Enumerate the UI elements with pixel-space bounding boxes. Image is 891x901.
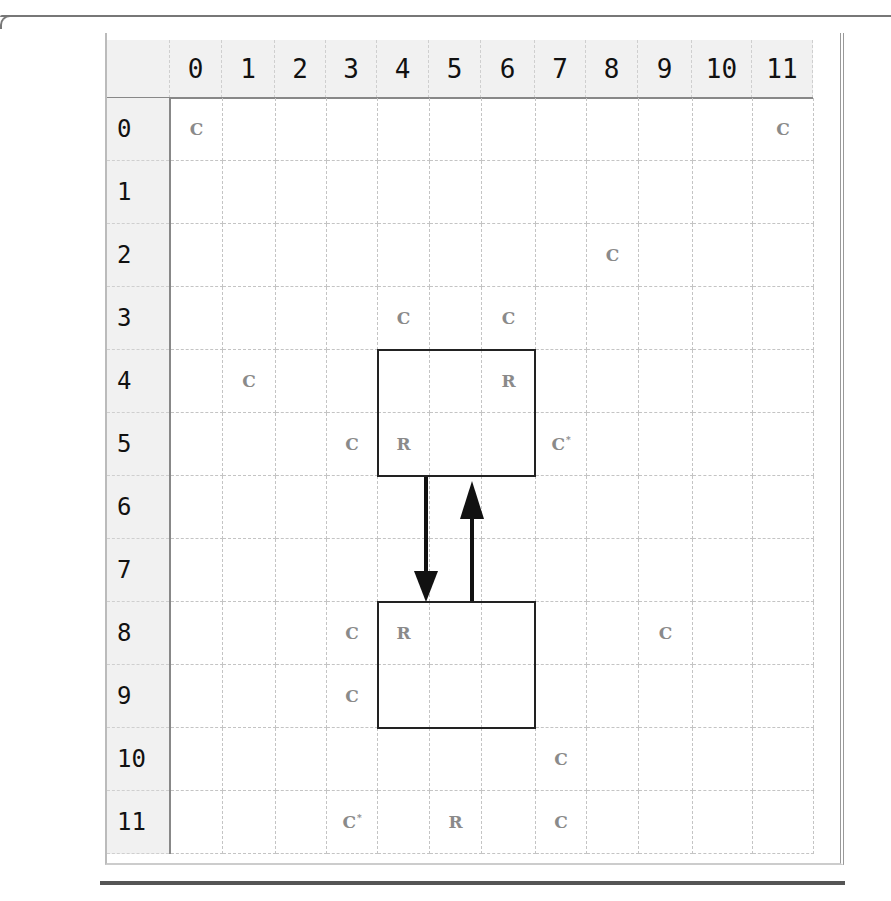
grid-cell[interactable] [276,791,327,854]
row-header-6[interactable]: 6 [107,476,169,539]
grid-cell[interactable] [378,665,430,728]
cell-c-marker[interactable]: C [327,665,378,728]
column-header-3[interactable]: 3 [326,40,377,98]
grid-cell[interactable] [587,665,639,728]
grid-cell[interactable] [378,476,430,539]
grid-cell[interactable] [753,728,814,791]
grid-cell[interactable] [482,728,536,791]
grid-cell[interactable] [587,350,639,413]
row-header-10[interactable]: 10 [107,728,169,791]
grid-cell[interactable] [430,728,482,791]
column-header-8[interactable]: 8 [586,40,638,98]
cell-c-marker[interactable]: C* [536,413,587,476]
grid-cell[interactable] [171,791,223,854]
grid-cell[interactable] [639,539,693,602]
grid-cell[interactable] [171,350,223,413]
grid-cell[interactable] [639,413,693,476]
grid-cell[interactable] [223,287,276,350]
grid-cell[interactable] [639,728,693,791]
grid-cell[interactable] [482,602,536,665]
grid-cell[interactable] [430,98,482,161]
grid-cell[interactable] [536,476,587,539]
column-header-4[interactable]: 4 [377,40,429,98]
grid-cell[interactable] [693,161,753,224]
grid-cell[interactable] [430,665,482,728]
grid-cell[interactable] [753,161,814,224]
grid-cell[interactable] [693,476,753,539]
cell-c-marker[interactable]: C [327,602,378,665]
grid-cell[interactable] [536,665,587,728]
grid-cell[interactable] [753,287,814,350]
grid-cell[interactable] [223,98,276,161]
grid-cell[interactable] [482,476,536,539]
grid-cell[interactable] [536,350,587,413]
grid-cell[interactable] [171,287,223,350]
cell-c-marker[interactable]: C [223,350,276,413]
grid-cell[interactable] [223,413,276,476]
grid-cell[interactable] [639,224,693,287]
grid-cell[interactable] [276,728,327,791]
grid-cell[interactable] [639,476,693,539]
grid-cell[interactable] [223,161,276,224]
grid-cell[interactable] [639,287,693,350]
column-header-7[interactable]: 7 [535,40,586,98]
row-header-1[interactable]: 1 [107,161,169,224]
row-header-3[interactable]: 3 [107,287,169,350]
grid-cell[interactable] [482,224,536,287]
grid-cell[interactable] [639,98,693,161]
grid-cell[interactable] [482,539,536,602]
grid-cell[interactable] [693,98,753,161]
grid-cell[interactable] [587,413,639,476]
grid-cell[interactable] [223,602,276,665]
grid-cell[interactable] [430,476,482,539]
grid-cell[interactable] [223,539,276,602]
grid-cell[interactable] [536,98,587,161]
grid-cell[interactable] [327,476,378,539]
row-header-8[interactable]: 8 [107,602,169,665]
grid-cell[interactable] [276,476,327,539]
grid-cell[interactable] [693,350,753,413]
row-header-4[interactable]: 4 [107,350,169,413]
grid-cell[interactable] [430,224,482,287]
cell-c-marker[interactable]: C [639,602,693,665]
grid-cell[interactable] [276,665,327,728]
grid-cell[interactable] [482,98,536,161]
grid-cell[interactable] [536,224,587,287]
grid-cell[interactable] [482,413,536,476]
grid-cell[interactable] [587,539,639,602]
grid-cell[interactable] [587,728,639,791]
cell-c-marker[interactable]: C [327,413,378,476]
row-header-5[interactable]: 5 [107,413,169,476]
grid-cell[interactable] [276,350,327,413]
grid-cell[interactable] [693,665,753,728]
grid-cell[interactable] [276,161,327,224]
grid-cell[interactable] [327,728,378,791]
grid-cell[interactable] [482,161,536,224]
grid-cell[interactable] [223,665,276,728]
column-header-9[interactable]: 9 [638,40,692,98]
grid-cell[interactable] [587,602,639,665]
cell-c-marker[interactable]: C* [327,791,378,854]
grid-cell[interactable] [378,161,430,224]
grid-cell[interactable] [430,413,482,476]
column-header-10[interactable]: 10 [692,40,752,98]
column-header-5[interactable]: 5 [429,40,481,98]
cell-c-marker[interactable]: C [587,224,639,287]
grid-cell[interactable] [276,287,327,350]
grid-cell[interactable] [482,791,536,854]
grid-cell[interactable] [430,161,482,224]
grid-cell[interactable] [171,539,223,602]
grid-cell[interactable] [378,539,430,602]
row-header-0[interactable]: 0 [107,98,169,161]
grid-cell[interactable] [276,413,327,476]
grid-cell[interactable] [378,224,430,287]
grid-cell[interactable] [430,602,482,665]
grid-cell[interactable] [327,539,378,602]
grid-cell[interactable] [327,98,378,161]
grid-cell[interactable] [171,728,223,791]
grid-cell[interactable] [327,161,378,224]
grid-cell[interactable] [693,287,753,350]
cell-c-marker[interactable]: C [536,791,587,854]
grid-cell[interactable] [171,602,223,665]
grid-cell[interactable] [327,287,378,350]
